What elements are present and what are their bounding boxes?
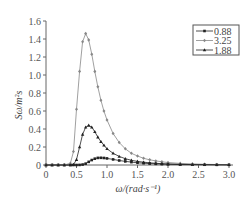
series-1.88 (44, 124, 230, 167)
y-tick-label: 0.2 (29, 142, 42, 153)
y-tick-label: 0.4 (29, 124, 42, 135)
x-tick-label: 2.0 (162, 169, 175, 180)
y-axis-label: Sω/m²s (13, 90, 24, 119)
x-tick-label: 0 (44, 169, 49, 180)
x-tick-label: 0.5 (70, 169, 83, 180)
x-tick-label: 3.0 (223, 169, 236, 180)
y-tick-label: 0.6 (29, 106, 42, 117)
y-tick-label: 1.0 (29, 70, 42, 81)
y-tick-label: 1.2 (29, 52, 42, 63)
y-tick-label: 0.8 (29, 88, 42, 99)
legend-label: 1.88 (214, 45, 232, 56)
y-tick-label: 1.4 (29, 34, 42, 45)
x-tick-label: 1.0 (101, 169, 114, 180)
y-tick-label: 1.6 (29, 16, 42, 27)
y-tick-label: 0 (36, 160, 41, 171)
legend: 0.883.251.88 (193, 25, 239, 56)
chart: 00.20.40.60.81.01.21.41.600.51.01.52.02.… (0, 0, 246, 198)
x-axis-label: ω/(rad·s⁻¹) (116, 183, 161, 195)
x-tick-label: 1.5 (131, 169, 144, 180)
x-tick-label: 2.5 (192, 169, 205, 180)
